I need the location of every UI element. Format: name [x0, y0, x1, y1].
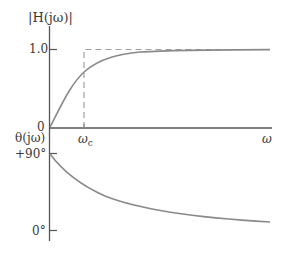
phase-ylabel: θ(jω) — [15, 132, 45, 144]
wc-label: ωc — [78, 133, 93, 148]
tick-90-label: +90° — [15, 148, 46, 160]
phase-axes — [49, 128, 57, 241]
wc-omega: ω — [78, 132, 88, 146]
magnitude-curve — [50, 50, 270, 127]
ideal-highpass-dashed — [84, 50, 270, 129]
mag-ylabel-text: |H(jω)| — [28, 10, 73, 25]
omega-axis-label: ω — [262, 133, 272, 145]
tick-one-label: 1.0 — [29, 43, 48, 55]
tick-0deg-label: 0° — [32, 225, 46, 237]
mag-ylabel: |H(jω)| — [28, 11, 73, 24]
phase-curve — [50, 154, 270, 222]
magnitude-axes — [49, 26, 272, 128]
wc-sub: c — [88, 138, 93, 148]
